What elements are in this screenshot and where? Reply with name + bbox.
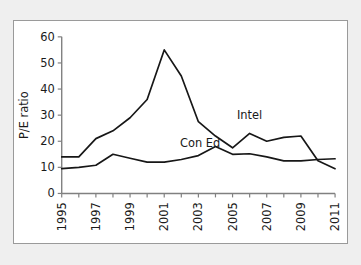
x-tick-label: 1997 <box>89 202 103 231</box>
x-tick-label: 1999 <box>123 202 137 231</box>
y-tick-label: 20 <box>40 134 55 148</box>
series-line-intel <box>62 50 335 169</box>
series-lines <box>62 50 335 169</box>
x-axis: 199519971999200120032005200720092011 <box>55 193 342 231</box>
y-tick-label: 60 <box>40 30 55 44</box>
x-tick-label: 2009 <box>294 202 308 231</box>
x-tick-label: 2003 <box>191 202 205 231</box>
series-label-con-ed: Con Ed <box>180 137 220 151</box>
pe-ratio-line-chart: 0102030405060 19951997199920012003200520… <box>14 21 347 243</box>
series-label-intel: Intel <box>237 108 262 122</box>
y-tick-label: 30 <box>40 108 55 122</box>
x-tick-label: 2001 <box>157 202 171 231</box>
y-axis-title: P/E ratio <box>17 91 31 139</box>
series-annotations: IntelCon Ed <box>180 108 262 150</box>
x-tick-label: 2007 <box>260 202 274 231</box>
x-tick-label: 2011 <box>328 202 342 231</box>
x-tick-label: 1995 <box>55 202 69 231</box>
y-tick-label: 10 <box>40 160 55 174</box>
y-tick-label: 50 <box>40 56 55 70</box>
y-axis: 0102030405060 <box>40 30 61 201</box>
y-tick-label: 0 <box>47 186 54 200</box>
y-tick-label: 40 <box>40 82 55 96</box>
chart-figure-frame: 0102030405060 19951997199920012003200520… <box>13 20 348 244</box>
x-tick-label: 2005 <box>226 202 240 231</box>
